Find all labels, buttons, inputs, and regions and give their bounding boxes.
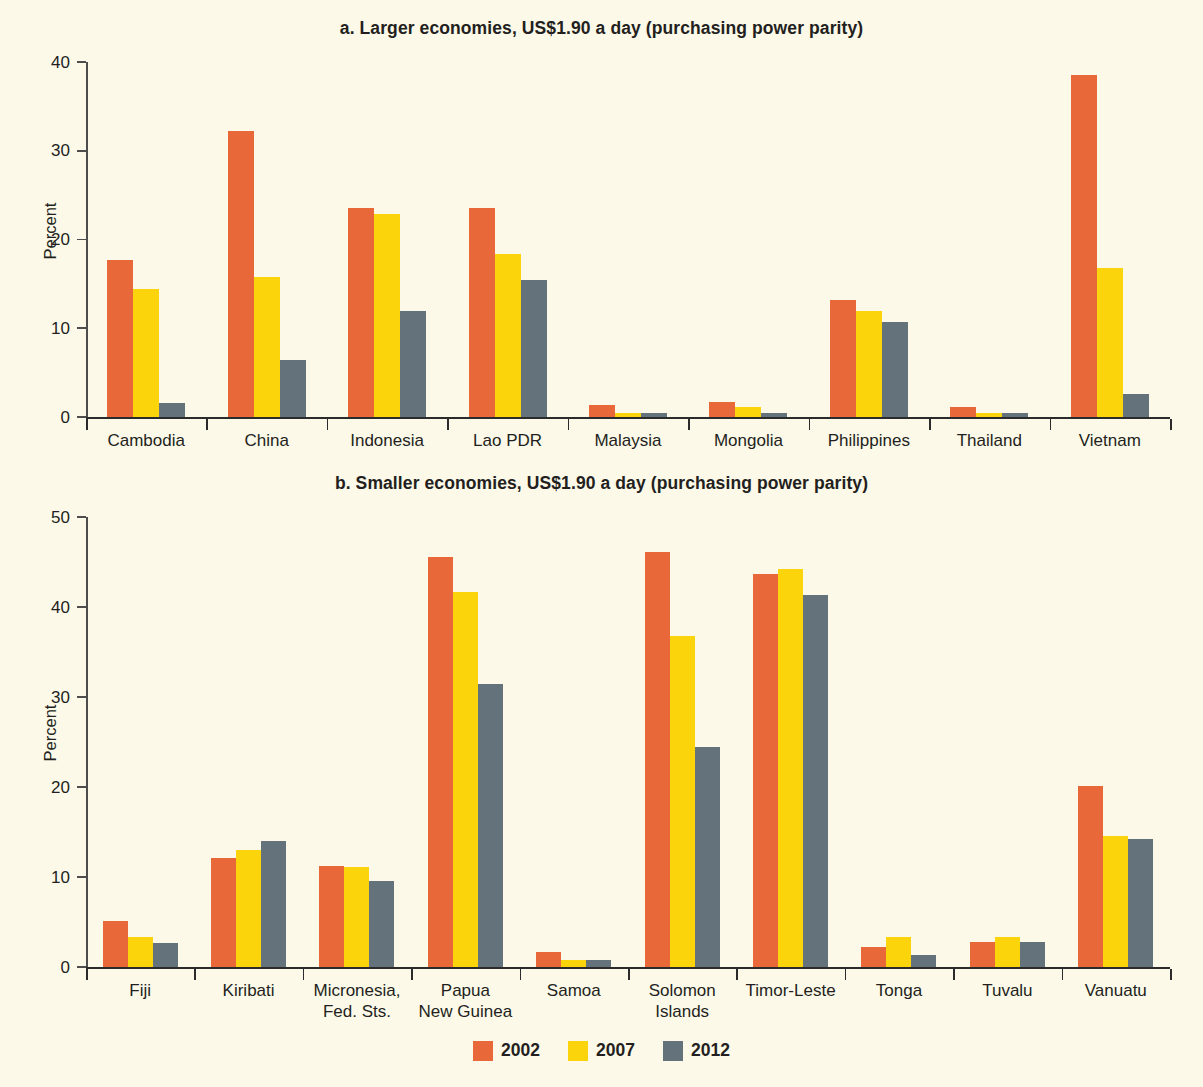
chart-b-y-tick-mark (77, 696, 86, 698)
bar (586, 960, 611, 967)
chart-panel-b: b. Smaller economies, US$1.90 a day (pur… (0, 460, 1203, 1030)
chart-a-x-tick (568, 419, 570, 430)
chart-a-y-tick-mark (77, 327, 86, 329)
bar-group (303, 517, 411, 967)
bar-group (411, 517, 519, 967)
chart-a-x-tick (206, 419, 208, 430)
chart-a-x-tick (688, 419, 690, 430)
bar (1103, 836, 1128, 967)
chart-b-y-axis: 01020304050 (0, 508, 86, 958)
bar-group (86, 517, 194, 967)
x-axis-category-label: Philippines (809, 431, 929, 452)
chart-b-x-tick (1170, 969, 1172, 980)
bar-group (1062, 517, 1170, 967)
bar (400, 311, 426, 417)
chart-b-x-tick (628, 969, 630, 980)
bar (469, 208, 495, 417)
bar (803, 595, 828, 967)
chart-a-y-tick-mark (77, 239, 86, 241)
bar-group (86, 62, 206, 417)
bar (970, 942, 995, 967)
bar (1078, 786, 1103, 967)
legend-swatch-2007 (568, 1041, 588, 1061)
chart-b-y-tick-mark (77, 966, 86, 968)
bar-group (327, 62, 447, 417)
chart-a-plot: Percent 010203040 CambodiaChinaIndonesia… (0, 53, 1203, 408)
chart-a-title: a. Larger economies, US$1.90 a day (purc… (0, 0, 1203, 39)
bar-group (628, 517, 736, 967)
chart-a-y-tick-label: 40 (51, 54, 70, 71)
bar-group (845, 517, 953, 967)
chart-b-x-tick (520, 969, 522, 980)
chart-b-y-tick-label: 30 (51, 689, 70, 706)
bar (280, 360, 306, 417)
legend-item: 2007 (568, 1040, 635, 1061)
bar (159, 403, 185, 417)
x-axis-category-label: Solomon Islands (628, 981, 736, 1022)
bar (709, 402, 735, 417)
bar-group (929, 62, 1049, 417)
legend-swatch-2002 (473, 1041, 493, 1061)
chart-a-x-tick (1050, 419, 1052, 430)
x-axis-category-label: Tuvalu (953, 981, 1061, 1002)
chart-b-y-tick-label: 0 (61, 959, 70, 976)
chart-a-x-axis-line (86, 417, 1170, 419)
x-axis-category-label: Vietnam (1050, 431, 1170, 452)
bar-group (568, 62, 688, 417)
chart-b-x-tick (86, 969, 88, 980)
bar (735, 407, 761, 417)
chart-a-x-tick (327, 419, 329, 430)
chart-a-y-tick-mark (77, 61, 86, 63)
bar (753, 574, 778, 967)
bar (495, 254, 521, 417)
bar (995, 937, 1020, 967)
bar (856, 311, 882, 417)
bar (348, 208, 374, 417)
bar-group (447, 62, 567, 417)
bar-group (194, 517, 302, 967)
x-axis-category-label: Fiji (86, 981, 194, 1002)
x-axis-category-label: Tonga (845, 981, 953, 1002)
bar (1123, 394, 1149, 417)
bar (133, 289, 159, 417)
bar (453, 592, 478, 967)
chart-a-y-axis: 010203040 (0, 53, 86, 408)
bar (1097, 268, 1123, 417)
bar (641, 413, 667, 417)
bar (211, 858, 236, 967)
bar (478, 684, 503, 967)
chart-b-y-tick-label: 10 (51, 869, 70, 886)
x-axis-category-label: Mongolia (688, 431, 808, 452)
bar (882, 322, 908, 417)
chart-a-x-tick (1170, 419, 1172, 430)
chart-legend: 200220072012 (0, 1040, 1203, 1061)
bar (107, 260, 133, 417)
x-axis-category-label: Indonesia (327, 431, 447, 452)
chart-b-y-tick-label: 40 (51, 599, 70, 616)
chart-a-x-tick (86, 419, 88, 430)
x-axis-category-label: Kiribati (194, 981, 302, 1002)
legend-item: 2012 (663, 1040, 730, 1061)
chart-b-x-tick (194, 969, 196, 980)
chart-a-y-tick-label: 10 (51, 320, 70, 337)
bar (1020, 942, 1045, 967)
chart-b-x-tick (953, 969, 955, 980)
x-axis-category-label: Samoa (520, 981, 628, 1002)
bar (228, 131, 254, 417)
chart-b-y-tick-label: 20 (51, 779, 70, 796)
chart-b-y-tick-mark (77, 606, 86, 608)
x-axis-category-label: Vanuatu (1062, 981, 1170, 1002)
chart-a-y-tick-label: 20 (51, 231, 70, 248)
x-axis-category-label: Papua New Guinea (411, 981, 519, 1022)
bar (261, 841, 286, 967)
chart-a-y-tick-label: 30 (51, 142, 70, 159)
chart-b-bars-area (86, 517, 1170, 967)
bar-group (688, 62, 808, 417)
bar (561, 960, 586, 967)
chart-b-x-tick (1062, 969, 1064, 980)
chart-b-y-tick-label: 50 (51, 509, 70, 526)
bar (645, 552, 670, 967)
legend-label: 2012 (691, 1040, 730, 1061)
bar (428, 557, 453, 967)
bar-group (1050, 62, 1170, 417)
